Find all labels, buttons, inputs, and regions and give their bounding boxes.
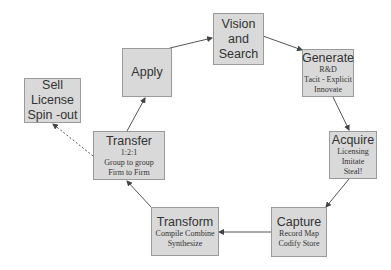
edge-transfer-to-apply (127, 98, 145, 131)
node-acquire: Acquire Licensing Imitate Steal! (329, 131, 377, 179)
node-acquire-detail-2: Imitate (342, 157, 365, 167)
node-vision-line-1: Vision (222, 17, 256, 32)
node-sell-license-spinout: Sell License Spin -out (24, 78, 81, 123)
node-vision-and-search: Vision and Search (213, 13, 264, 65)
node-transfer-title: Transfer (106, 134, 152, 148)
node-vision-line-2: and (228, 32, 249, 47)
node-sell-line-3: Spin -out (27, 108, 77, 123)
node-capture-detail-1: Record Map (279, 229, 319, 239)
node-capture: Capture Record Map Codify Store (271, 207, 327, 257)
node-vision-line-3: Search (219, 47, 259, 62)
node-generate-detail-3: Innovate (314, 85, 342, 95)
node-capture-detail-2: Codify Store (278, 239, 319, 249)
node-apply: Apply (122, 48, 172, 97)
node-transform-detail-1: Compile Combine (156, 229, 215, 239)
node-transfer-detail-3: Firm to Firm (108, 168, 149, 178)
node-transfer: Transfer 1:2:1 Group to group Firm to Fi… (93, 131, 165, 180)
node-generate: Generate R&D Tacit - Explicit Innovate (302, 49, 354, 97)
node-acquire-detail-1: Licensing (337, 147, 369, 157)
node-sell-line-2: License (31, 93, 74, 108)
edge-generate-to-acquire (333, 97, 349, 130)
node-apply-label: Apply (131, 65, 162, 80)
node-generate-title: Generate (302, 51, 354, 65)
node-capture-title: Capture (277, 215, 321, 229)
node-acquire-detail-3: Steal! (344, 167, 363, 177)
node-generate-detail-2: Tacit - Explicit (304, 75, 352, 85)
edge-transfer-to-sell (53, 124, 93, 156)
node-generate-detail-1: R&D (319, 65, 336, 75)
edge-transform-to-transfer (127, 181, 151, 207)
node-transfer-detail-2: Group to group (104, 158, 153, 168)
node-acquire-title: Acquire (332, 133, 374, 147)
edge-apply-to-vision (170, 38, 212, 48)
node-transform-title: Transform (157, 215, 214, 229)
node-transfer-detail-1: 1:2:1 (121, 148, 137, 158)
node-transform-detail-2: Synthesize (168, 239, 203, 249)
node-transform: Transform Compile Combine Synthesize (151, 207, 219, 256)
edge-vision-to-generate (263, 36, 302, 50)
node-sell-line-1: Sell (42, 78, 63, 93)
edge-acquire-to-capture (326, 179, 349, 207)
